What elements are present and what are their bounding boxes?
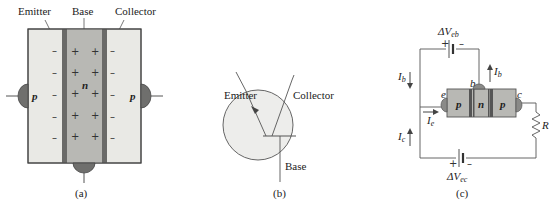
svg-text:–: –: [52, 45, 57, 56]
label-emitter-b: Emitter: [224, 89, 257, 101]
ib-up-arrow-icon: [487, 64, 493, 70]
battery-eb-minus: –: [459, 38, 464, 49]
svg-text:+: +: [91, 46, 99, 57]
svg-text:–: –: [52, 132, 57, 143]
svg-text:+: +: [91, 110, 99, 121]
resistor-icon: [532, 112, 540, 138]
svg-text:–: –: [110, 111, 115, 122]
svg-text:–: –: [52, 111, 57, 122]
caption-a: (a): [75, 187, 88, 200]
ie-right-arrow-icon: [433, 109, 439, 115]
svg-text:+: +: [91, 131, 99, 142]
emitter-contact: [18, 84, 28, 108]
svg-text:+: +: [91, 67, 99, 78]
svg-text:–: –: [110, 67, 115, 78]
terminal-c: c: [517, 88, 522, 100]
region-n: n: [82, 79, 88, 91]
label-base-b: Base: [285, 160, 307, 172]
region-n-c: n: [478, 98, 484, 110]
svg-text:+: +: [91, 88, 99, 99]
figure-a: Emitter Base Collector p n p – – – – – +…: [6, 5, 163, 200]
junction-right: [102, 29, 107, 163]
battery-ec-plus: +: [449, 158, 457, 169]
label-collector-b: Collector: [293, 89, 334, 101]
battery-eb-plus: +: [441, 38, 449, 49]
svg-text:–: –: [52, 89, 57, 100]
current-ib-left: Ib: [397, 70, 406, 84]
transistor-figure: Emitter Base Collector p n p – – – – – +…: [0, 0, 555, 204]
battery-ec-label: ΔVec: [446, 170, 468, 184]
figure-b: Emitter Collector Base (b): [223, 72, 334, 200]
label-collector: Collector: [115, 5, 156, 17]
region-p-right: p: [129, 90, 136, 102]
base-region: [62, 29, 107, 163]
base-contact: [73, 163, 95, 173]
region-p-left: p: [31, 90, 38, 102]
junction-left: [62, 29, 67, 163]
current-ie: Ie: [426, 114, 435, 128]
caption-b: (b): [273, 187, 286, 200]
battery-ec-minus: –: [467, 158, 472, 169]
svg-text:+: +: [71, 46, 79, 57]
ic-up-arrow-icon: [407, 128, 413, 134]
svg-text:+: +: [71, 88, 79, 99]
resistor-label: R: [541, 119, 549, 131]
terminal-e: e: [441, 88, 446, 100]
svg-text:–: –: [110, 89, 115, 100]
terminal-b: b: [470, 77, 476, 89]
emitter-contact-c: [441, 98, 447, 112]
current-ic: Ic: [397, 130, 406, 144]
label-base: Base: [72, 5, 94, 17]
svg-text:–: –: [110, 132, 115, 143]
label-emitter: Emitter: [18, 5, 51, 17]
svg-text:+: +: [71, 67, 79, 78]
collector-contact-c: [516, 98, 522, 112]
region-p-right-c: p: [499, 98, 506, 110]
svg-text:+: +: [71, 110, 79, 121]
collector-contact: [141, 84, 151, 108]
svg-text:+: +: [71, 131, 79, 142]
battery-eb-label: ΔVeb: [437, 25, 459, 39]
svg-text:–: –: [110, 45, 115, 56]
figure-c: p n p e b c ΔVeb + – ΔVec + – Ib Ib Ie I…: [397, 25, 549, 200]
current-ib-right: Ib: [493, 65, 502, 79]
svg-text:–: –: [52, 67, 57, 78]
region-p-left-c: p: [455, 98, 462, 110]
caption-c: (c): [456, 187, 469, 200]
ib-down-arrow-icon: [407, 83, 413, 89]
